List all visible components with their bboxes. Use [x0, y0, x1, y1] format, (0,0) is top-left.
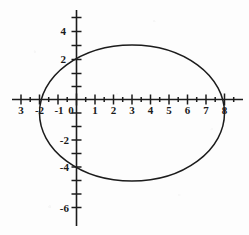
x-tick-label-group: 3 -2 -1 0 1 2 3 4 5 6 7 8	[18, 104, 228, 116]
figure-canvas: 3 -2 -1 0 1 2 3 4 5 6 7 8 4 2 -2 -4 -6	[0, 0, 249, 235]
y-tick-label-group: 4 2 -2 -4 -6	[60, 25, 70, 214]
x-tick-label-zero: 0	[68, 104, 74, 116]
coordinate-plot: 3 -2 -1 0 1 2 3 4 5 6 7 8 4 2 -2 -4 -6	[0, 0, 249, 235]
y-tick-label-neg2: -2	[60, 134, 70, 146]
y-tick-label-4: 4	[61, 25, 67, 37]
y-tick-label-neg6: -6	[60, 202, 70, 214]
y-tick-label-neg4: -4	[60, 161, 70, 173]
x-tick-label-1: 1	[92, 104, 98, 116]
x-tick-label-neg3: 3	[18, 104, 24, 116]
x-tick-label-3: 3	[129, 104, 135, 116]
x-tick-label-8: 8	[222, 104, 228, 116]
x-tick-label-2: 2	[111, 104, 117, 116]
x-tick-label-7: 7	[203, 104, 209, 116]
x-tick-label-neg2: -2	[35, 104, 45, 116]
x-tick-label-4: 4	[148, 104, 154, 116]
x-tick-label-neg1: -1	[54, 104, 63, 116]
y-tick-label-2: 2	[61, 53, 67, 65]
axis-group	[12, 10, 243, 226]
x-tick-label-6: 6	[185, 104, 191, 116]
x-tick-label-5: 5	[166, 104, 172, 116]
